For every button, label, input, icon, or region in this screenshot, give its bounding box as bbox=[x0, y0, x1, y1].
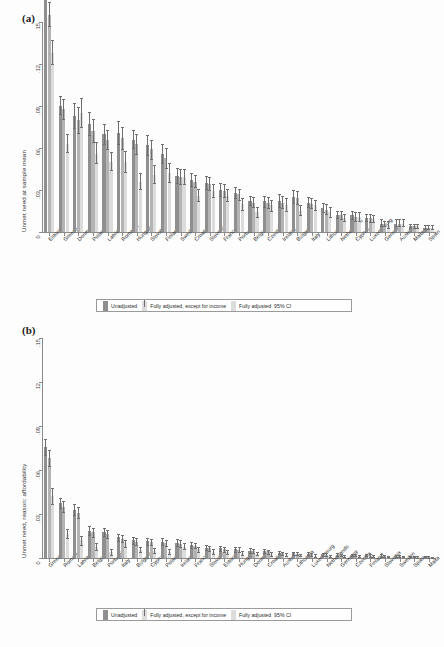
error-bar-cap bbox=[223, 184, 226, 185]
error-bar-cap bbox=[51, 40, 54, 41]
error-bar-cap bbox=[212, 549, 215, 550]
error-bar-cap bbox=[124, 547, 127, 548]
error-bar-cap bbox=[92, 537, 95, 538]
panel-a-legend: Unadjusted Fully adjusted, except for in… bbox=[96, 299, 352, 312]
error-bar bbox=[381, 219, 382, 226]
error-bar-cap bbox=[358, 212, 361, 213]
error-bar-cap bbox=[110, 549, 113, 550]
error-bar-cap bbox=[77, 518, 80, 519]
y-axis-tick-label: .12 bbox=[35, 381, 41, 393]
legend-swatch-fully-adjusted bbox=[231, 301, 236, 311]
error-bar-cap bbox=[153, 165, 156, 166]
error-bar bbox=[104, 528, 105, 536]
y-axis-title: Unmet need at sample mean bbox=[20, 150, 27, 232]
error-bar bbox=[300, 205, 301, 215]
error-bar-cap bbox=[150, 539, 153, 540]
error-bar bbox=[93, 119, 94, 143]
error-bar bbox=[118, 121, 119, 143]
error-bar-cap bbox=[62, 512, 65, 513]
error-bar-cap bbox=[183, 169, 186, 170]
error-bar-cap bbox=[44, 439, 47, 440]
error-bar bbox=[396, 219, 397, 226]
error-bar-cap bbox=[238, 547, 241, 548]
error-bar-cap bbox=[66, 538, 69, 539]
bar-fully-adjusted bbox=[109, 162, 112, 232]
error-bar-cap bbox=[132, 130, 135, 131]
error-bar-cap bbox=[241, 210, 244, 211]
error-bar-cap bbox=[256, 217, 259, 218]
panel-a-plot-area: 0.03.06.09.12.15Unmet need at sample mea… bbox=[0, 0, 444, 322]
error-bar bbox=[191, 173, 192, 186]
error-bar-cap bbox=[194, 175, 197, 176]
error-bar-cap bbox=[256, 552, 259, 553]
error-bar bbox=[366, 214, 367, 221]
error-bar bbox=[227, 189, 228, 202]
error-bar bbox=[213, 184, 214, 197]
legend-label-unadjusted: Unadjusted bbox=[111, 612, 137, 618]
legend-label-except-income: Fully adjusted, except for income bbox=[150, 303, 226, 309]
error-bar-cap bbox=[329, 217, 332, 218]
error-bar-cap bbox=[80, 127, 83, 128]
error-bar-cap bbox=[139, 552, 142, 553]
error-bar-cap bbox=[197, 552, 200, 553]
error-bar-cap bbox=[329, 555, 332, 556]
legend-label-ci: 95% CI bbox=[274, 612, 291, 618]
error-bar-cap bbox=[179, 540, 182, 541]
error-bar-cap bbox=[80, 536, 83, 537]
error-bar-cap bbox=[124, 151, 127, 152]
error-bar-cap bbox=[343, 214, 346, 215]
bar-fully-adjusted bbox=[80, 113, 83, 232]
error-bar bbox=[63, 99, 64, 119]
error-bar-cap bbox=[212, 197, 215, 198]
legend-item-fully-adjusted: Fully adjusted 95% CI bbox=[231, 610, 291, 620]
error-bar-cap bbox=[62, 99, 65, 100]
error-bar-cap bbox=[241, 555, 244, 556]
error-bar bbox=[154, 165, 155, 183]
error-bar-cap bbox=[358, 557, 361, 558]
error-bar-cap bbox=[77, 507, 80, 508]
error-bar-cap bbox=[387, 557, 390, 558]
error-bar bbox=[122, 535, 123, 542]
error-bar-cap bbox=[168, 182, 171, 183]
error-bar-cap bbox=[139, 173, 142, 174]
error-bar-cap bbox=[183, 184, 186, 185]
y-axis-tick-label: .15 bbox=[35, 337, 41, 349]
y-axis-tick-label: .09 bbox=[35, 425, 41, 437]
error-bar-cap bbox=[226, 550, 229, 551]
error-bar bbox=[45, 439, 46, 455]
error-bar-cap bbox=[402, 226, 405, 227]
error-bar bbox=[337, 211, 338, 218]
error-bar-cap bbox=[226, 201, 229, 202]
error-bar bbox=[52, 40, 53, 64]
error-bar-cap bbox=[387, 221, 390, 222]
error-bar bbox=[195, 175, 196, 188]
error-bar bbox=[177, 168, 178, 183]
error-bar bbox=[235, 187, 236, 198]
error-bar-cap bbox=[340, 211, 343, 212]
error-bar-cap bbox=[197, 201, 200, 202]
error-bar-cap bbox=[110, 152, 113, 153]
error-bar-cap bbox=[106, 149, 109, 150]
error-bar bbox=[169, 163, 170, 181]
bar-fully-adjusted bbox=[51, 53, 54, 232]
error-bar-cap bbox=[73, 504, 76, 505]
error-bar bbox=[282, 196, 283, 209]
error-bar-cap bbox=[92, 119, 95, 120]
error-bar bbox=[370, 214, 371, 222]
y-axis-tick-label: 0 bbox=[35, 231, 41, 243]
error-bar-cap bbox=[51, 488, 54, 489]
error-bar-cap bbox=[343, 557, 346, 558]
error-bar bbox=[308, 197, 309, 207]
error-bar-cap bbox=[124, 540, 127, 541]
error-bar bbox=[67, 134, 68, 152]
error-bar-cap bbox=[51, 504, 54, 505]
error-bar-cap bbox=[92, 528, 95, 529]
error-bar-cap bbox=[358, 555, 361, 556]
error-bar-cap bbox=[183, 549, 186, 550]
error-bar-cap bbox=[66, 529, 69, 530]
legend-swatch-except-income bbox=[142, 610, 147, 620]
error-bar bbox=[162, 144, 163, 164]
panel-b-legend: Unadjusted Fully adjusted, except for in… bbox=[96, 608, 352, 621]
error-bar-cap bbox=[197, 189, 200, 190]
error-bar bbox=[93, 528, 94, 537]
